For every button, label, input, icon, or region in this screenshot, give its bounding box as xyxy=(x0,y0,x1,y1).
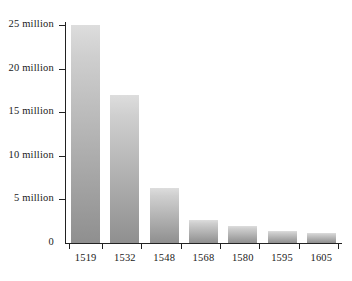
x-axis-tick-label: 1595 xyxy=(262,252,301,263)
bar xyxy=(307,233,336,243)
x-axis-tick xyxy=(69,244,70,249)
bar-chart: 05 million10 million15 million20 million… xyxy=(0,0,352,281)
x-axis-tick xyxy=(259,244,260,249)
x-axis-tick xyxy=(220,244,221,249)
x-axis-tick-label: 1568 xyxy=(184,252,223,263)
bar xyxy=(71,25,100,243)
bar xyxy=(110,95,139,243)
x-axis-tick xyxy=(181,244,182,249)
bar xyxy=(189,220,218,243)
x-axis-tick xyxy=(338,244,339,249)
bars-layer xyxy=(0,0,352,243)
bar xyxy=(228,226,257,243)
x-axis-tick xyxy=(102,244,103,249)
bar xyxy=(268,231,297,243)
x-axis-tick-label: 1580 xyxy=(223,252,262,263)
x-axis-tick-label: 1605 xyxy=(302,252,341,263)
x-axis-tick-label: 1519 xyxy=(66,252,105,263)
x-axis-tick xyxy=(299,244,300,249)
x-axis-tick-label: 1532 xyxy=(105,252,144,263)
x-axis-line xyxy=(65,243,342,244)
bar xyxy=(150,188,179,243)
x-axis-tick-label: 1548 xyxy=(145,252,184,263)
x-axis-tick xyxy=(141,244,142,249)
